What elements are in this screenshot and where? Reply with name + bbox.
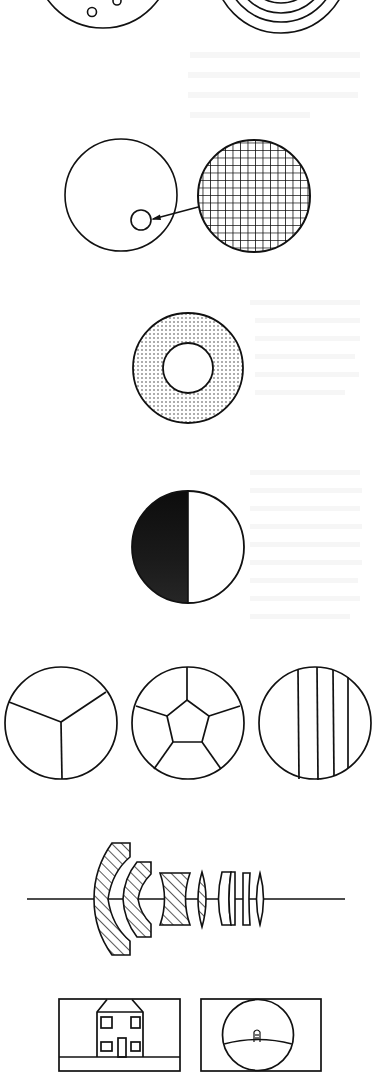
fig-frames [59,999,321,1071]
three-sector-circle [5,667,117,779]
frame-rect [59,999,180,1071]
large-circle-cropped [35,0,171,28]
fig-segmented-row [5,667,371,780]
lens-doublet [219,872,236,925]
small-circle [88,8,97,17]
diagram-page [0,0,374,1073]
fig-top-left [35,0,171,28]
concentric-ring [244,0,318,3]
fig-top-right [214,0,348,33]
fig-annulus [133,313,243,423]
grid-circle [198,140,310,252]
fig-half-disc [132,491,244,603]
concentric-ring [214,0,348,33]
house-icon [97,1000,143,1058]
field-circle [65,139,177,251]
lens-biconvex-hatched [198,872,206,927]
inset-circle [131,210,151,230]
inner-hole [163,343,213,393]
lens-biconvex [257,873,264,925]
frame-rectilinear [59,999,180,1071]
lens-biconcave [160,873,190,925]
horizon-curve [224,1040,292,1045]
fig-magnifier [65,139,310,252]
small-circle [113,0,121,5]
arrowhead-icon [151,215,161,221]
fig-lens-system [27,843,345,955]
frame-rect [201,999,321,1071]
frame-fisheye [201,999,321,1071]
lens-thin-plano [243,873,250,925]
striped-circle [259,667,371,780]
pentagon-circle [132,667,244,779]
